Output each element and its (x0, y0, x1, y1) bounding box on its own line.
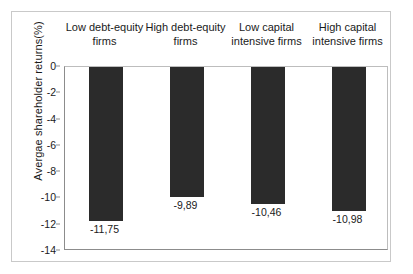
category-label: Low debt-equity firms (58, 20, 151, 48)
bar-value-label: -11,75 (75, 223, 135, 235)
y-tick-label: -6 (47, 139, 56, 151)
y-tick-mark (56, 171, 60, 172)
bar (170, 67, 204, 197)
y-tick-mark (56, 223, 60, 224)
y-tick-mark (56, 197, 60, 198)
bar (251, 67, 285, 204)
y-axis-tick-labels: 0-2-4-6-8-10-12-14 (26, 59, 60, 249)
bar (332, 67, 366, 211)
y-tick-label: -2 (47, 86, 56, 98)
y-tick-label: -8 (47, 165, 56, 177)
category-label: Low capital intensive firms (220, 20, 313, 48)
y-tick-mark (56, 118, 60, 119)
y-tick-mark (56, 92, 60, 93)
bar-value-label: -10,46 (237, 206, 297, 218)
bar (89, 67, 123, 221)
bar-value-label: -9,89 (156, 199, 216, 211)
y-tick-label: -4 (47, 113, 56, 125)
category-label: High capital intensive firms (301, 20, 394, 48)
bar-value-label: -10,98 (318, 213, 378, 225)
y-tick-label: -14 (41, 244, 56, 256)
category-labels: Low debt-equity firmsHigh debt-equity fi… (64, 20, 388, 64)
category-label: High debt-equity firms (139, 20, 232, 48)
chart-figure: Avergae shareholder returns(%) 0-2-4-6-8… (0, 0, 413, 274)
y-tick-mark (56, 66, 60, 67)
y-tick-label: -12 (41, 218, 56, 230)
y-tick-mark (56, 144, 60, 145)
y-tick-label: -10 (41, 191, 56, 203)
y-tick-mark (56, 250, 60, 251)
